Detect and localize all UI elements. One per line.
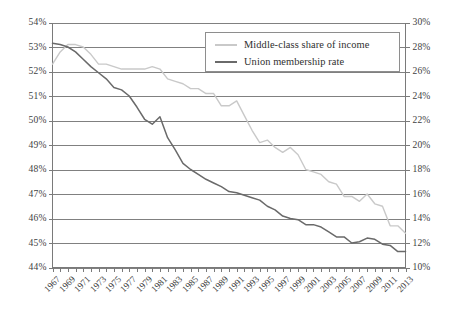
y-axis-right-tick-label: 26% [413, 65, 431, 76]
y-axis-left-tick-label: 47% [7, 188, 47, 199]
legend-item-0: Middle-class share of income [206, 36, 399, 53]
y-axis-left-tick-label: 46% [7, 212, 47, 223]
y-axis-left-tick-label: 48% [7, 163, 47, 174]
y-axis-right-tick-label: 12% [413, 237, 431, 248]
legend-item-1: Union membership rate [206, 53, 399, 70]
y-axis-left-tick-label: 44% [7, 261, 47, 272]
legend-label: Middle-class share of income [244, 39, 369, 50]
chart-legend: Middle-class share of incomeUnion member… [205, 32, 400, 72]
series-lines [53, 43, 406, 251]
y-axis-right-tick-label: 18% [413, 163, 431, 174]
legend-swatch-icon [215, 61, 237, 63]
y-axis-right-tick-label: 20% [413, 139, 431, 150]
y-axis-left-tick-label: 50% [7, 114, 47, 125]
y-axis-right-tick-label: 16% [413, 188, 431, 199]
y-axis-right-tick-label: 30% [413, 16, 431, 27]
legend-label: Union membership rate [244, 56, 344, 67]
legend-swatch-icon [215, 44, 237, 46]
y-axis-left-tick-label: 49% [7, 139, 47, 150]
y-axis-right-tick-label: 22% [413, 114, 431, 125]
y-axis-right-tick-label: 28% [413, 41, 431, 52]
y-axis-right-tick-label: 14% [413, 212, 431, 223]
y-axis-right-tick-label: 24% [413, 90, 431, 101]
series-line-1 [53, 43, 406, 251]
y-axis-left-tick-label: 45% [7, 237, 47, 248]
y-axis-left-tick-label: 53% [7, 41, 47, 52]
y-axis-right-tick-label: 10% [413, 261, 431, 272]
y-axis-left-tick-label: 54% [7, 16, 47, 27]
chart-container: 44%45%46%47%48%49%50%51%52%53%54% 10%12%… [0, 0, 462, 317]
y-axis-left-tick-label: 51% [7, 90, 47, 101]
y-axis-left-tick-label: 52% [7, 65, 47, 76]
